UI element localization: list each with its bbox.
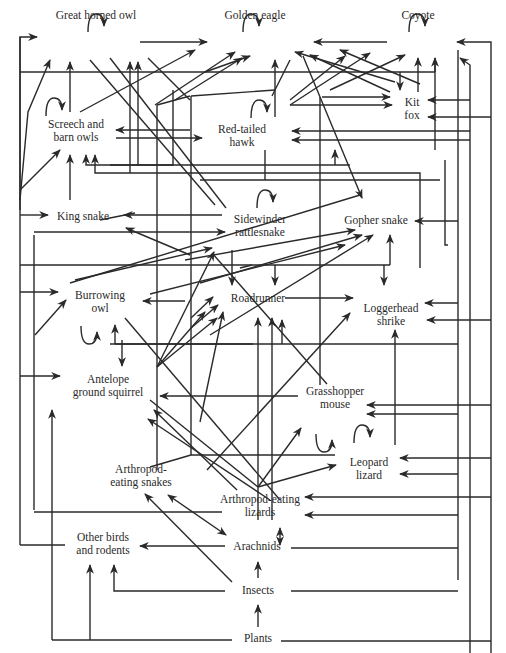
food-web-diagram: Great horned owl Golden eagle Coyote Kit… — [0, 0, 506, 653]
loggerhead-shrike-label: Loggerhead shrike — [364, 302, 419, 327]
node-sidewinder-rattlesnake: Sidewinder rattlesnake — [234, 213, 286, 239]
node-antelope-ground-squirrel: Antelope ground squirrel — [73, 373, 144, 399]
arthropod-lizards-label: Arthropod-eating lizards — [220, 493, 300, 518]
node-leopard-lizard: Leopard lizard — [350, 456, 388, 482]
node-arthropod-eating-lizards: Arthropod-eating lizards — [220, 493, 300, 519]
node-red-tailed-hawk: Red-tailed hawk — [218, 123, 266, 149]
screech-barn-owls-label: Screech and barn owls — [48, 118, 104, 143]
kit-fox-label: Kit fox — [404, 96, 419, 121]
node-coyote: Coyote — [401, 9, 434, 22]
arthropod-snakes-label: Arthropod- eating snakes — [110, 463, 172, 488]
antelope-squirrel-label: Antelope ground squirrel — [73, 373, 144, 398]
node-grasshopper-mouse: Grasshopper mouse — [306, 385, 364, 411]
node-burrowing-owl: Burrowing owl — [75, 289, 125, 315]
node-golden-eagle: Golden eagle — [225, 9, 286, 22]
node-other-birds-rodents: Other birds and rodents — [76, 531, 129, 557]
node-king-snake: King snake — [57, 210, 109, 223]
node-insects: Insects — [242, 584, 274, 597]
node-kit-fox: Kit fox — [404, 96, 419, 122]
node-gopher-snake: Gopher snake — [344, 214, 408, 227]
node-screech-barn-owls: Screech and barn owls — [48, 118, 104, 144]
grasshopper-mouse-label: Grasshopper mouse — [306, 385, 364, 410]
node-plants: Plants — [244, 632, 272, 645]
leopard-lizard-label: Leopard lizard — [350, 456, 388, 481]
node-arachnids: Arachnids — [233, 540, 280, 553]
other-birds-rodents-label: Other birds and rodents — [76, 531, 129, 556]
node-arthropod-eating-snakes: Arthropod- eating snakes — [110, 463, 172, 489]
red-tailed-hawk-label: Red-tailed hawk — [218, 123, 266, 148]
node-great-horned-owl: Great horned owl — [56, 9, 136, 22]
node-loggerhead-shrike: Loggerhead shrike — [364, 302, 419, 328]
sidewinder-label: Sidewinder rattlesnake — [234, 213, 286, 238]
node-roadrunner: Roadrunner — [231, 292, 285, 305]
burrowing-owl-label: Burrowing owl — [75, 289, 125, 314]
